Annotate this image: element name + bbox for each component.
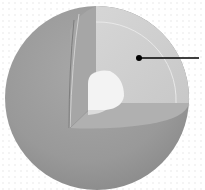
sphere-cutaway-diagram (0, 0, 205, 190)
diagram-stage (0, 0, 205, 190)
leader-dot (136, 55, 142, 61)
